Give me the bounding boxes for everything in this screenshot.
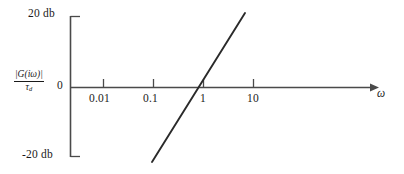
y-axis-title-denominator-subscript: d — [29, 85, 32, 92]
x-axis-tick-label-1: 1 — [200, 92, 206, 104]
y-axis-label-zero: 0 — [57, 79, 63, 91]
y-axis-label-bottom: -20 db — [22, 148, 53, 160]
x-axis-tick-label-0.01: 0.01 — [89, 92, 110, 104]
y-axis-title: |G(iω)| τd — [14, 70, 44, 92]
y-axis-title-numerator: |G(iω)| — [14, 70, 44, 82]
bode-magnitude-plot: 20 db 0 -20 db |G(iω)| τd 0.01 0.1 1 10 … — [0, 0, 404, 174]
x-axis-title: ω — [377, 87, 385, 99]
x-axis-tick-label-10: 10 — [247, 92, 259, 104]
x-axis-tick-label-0.1: 0.1 — [143, 92, 158, 104]
y-axis-label-top: 20 db — [28, 7, 55, 19]
y-axis-title-denominator: τd — [14, 82, 44, 93]
